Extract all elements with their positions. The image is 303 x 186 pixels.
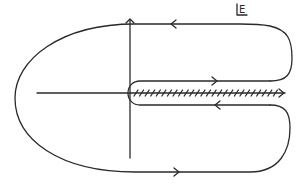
contour-outer xyxy=(15,24,292,172)
plane-label-text: E xyxy=(239,4,245,15)
contour-diagram: E xyxy=(0,0,303,186)
plane-label: E xyxy=(237,4,247,15)
